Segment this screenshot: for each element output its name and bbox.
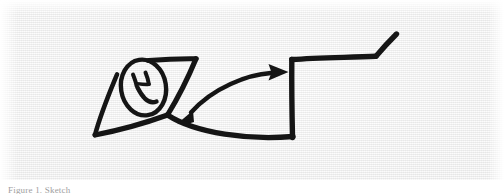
step-tread [292,56,376,59]
arrow-shaft [191,73,271,113]
step-kick [376,34,397,56]
smile [138,88,157,103]
step-shape [292,34,397,138]
wedge-bottom-edge [95,115,168,135]
double-arrow [178,64,289,125]
figure-caption: Figure 1. Sketch [8,186,158,194]
sketch-drawing [0,0,504,194]
arrowhead-right [269,64,289,81]
figure-root: Figure 1. Sketch [0,0,504,194]
wedge-right-diagonal [168,59,197,115]
smiley-face [117,56,170,118]
step-riser [292,60,293,138]
wedge-left-diagonal [95,75,117,136]
figure-caption-clip: Figure 1. Sketch [8,186,158,194]
right-eye [146,73,149,84]
face-outline [117,56,170,118]
eye-bridge [137,84,149,85]
wedge-top-edge [149,59,197,61]
